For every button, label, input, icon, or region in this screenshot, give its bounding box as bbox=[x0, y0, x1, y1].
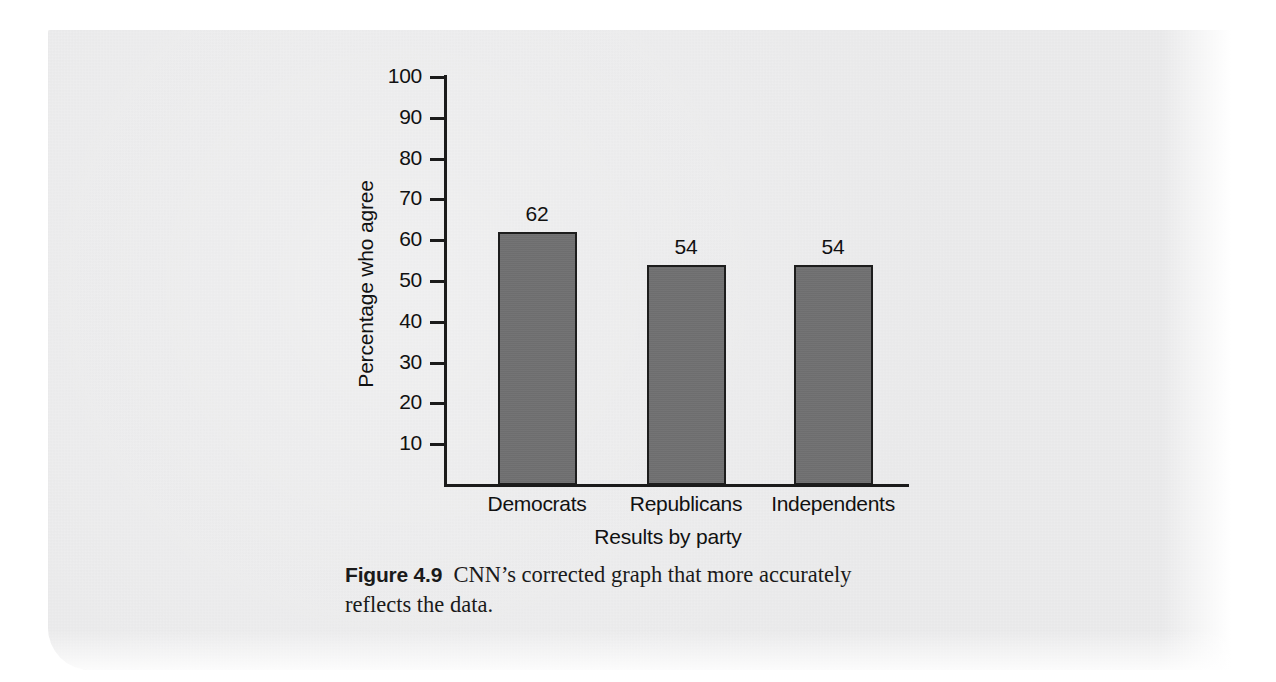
bar-value-label: 54 bbox=[636, 235, 736, 259]
y-axis-tick-label-text: 90 bbox=[362, 105, 422, 129]
y-axis-tick-mark bbox=[430, 321, 445, 324]
y-axis-tick-label-text: 50 bbox=[362, 268, 422, 292]
y-axis-tick-mark bbox=[430, 117, 445, 120]
y-axis-tick-label: 80 bbox=[360, 146, 422, 168]
y-axis-tick-label: 40 bbox=[360, 309, 422, 331]
y-axis-tick-label-text: 10 bbox=[362, 431, 422, 455]
y-axis-tick-mark bbox=[430, 158, 445, 161]
y-axis-tick-label: 60 bbox=[360, 227, 422, 249]
y-axis-tick-label: 70 bbox=[360, 186, 422, 208]
x-axis-title: Results by party bbox=[528, 525, 808, 549]
y-axis-tick-mark bbox=[430, 280, 445, 283]
y-axis-tick-mark bbox=[430, 402, 445, 405]
y-axis-tick-label-text: 30 bbox=[362, 350, 422, 374]
y-axis-tick-label-text: 40 bbox=[362, 309, 422, 333]
y-axis-tick-label: 20 bbox=[360, 390, 422, 412]
bar-independents[interactable] bbox=[794, 265, 873, 485]
y-axis-tick-mark bbox=[430, 76, 445, 79]
bar-value-label: 54 bbox=[783, 235, 883, 259]
y-axis-tick-label: 10 bbox=[360, 431, 422, 453]
y-axis-tick-mark bbox=[430, 443, 445, 446]
page-root: Percentage who agree 1020304050607080901… bbox=[0, 0, 1276, 682]
y-axis-tick-mark bbox=[430, 239, 445, 242]
y-axis-tick-label: 50 bbox=[360, 268, 422, 290]
y-axis-tick-label-text: 20 bbox=[362, 390, 422, 414]
bar-value-label: 62 bbox=[487, 202, 587, 226]
figure-label: Figure 4.9 bbox=[345, 563, 442, 586]
y-axis-tick-label-text: 80 bbox=[362, 146, 422, 170]
y-axis-tick-mark bbox=[430, 198, 445, 201]
y-axis-tick-label-text: 100 bbox=[362, 64, 422, 88]
y-axis-tick-label-text: 60 bbox=[362, 227, 422, 251]
y-axis-tick-label: 100 bbox=[360, 64, 422, 86]
bar-democrats[interactable] bbox=[498, 232, 577, 485]
caption-spacer bbox=[442, 562, 453, 587]
y-axis-tick-label-text: 70 bbox=[362, 186, 422, 210]
figure-caption: Figure 4.9 CNN’s corrected graph that mo… bbox=[345, 560, 905, 620]
y-axis-tick-label: 90 bbox=[360, 105, 422, 127]
y-axis-tick-label: 30 bbox=[360, 350, 422, 372]
x-axis-category-label: Independents bbox=[738, 492, 928, 516]
bar-republicans[interactable] bbox=[647, 265, 726, 485]
y-axis-tick-mark bbox=[430, 362, 445, 365]
